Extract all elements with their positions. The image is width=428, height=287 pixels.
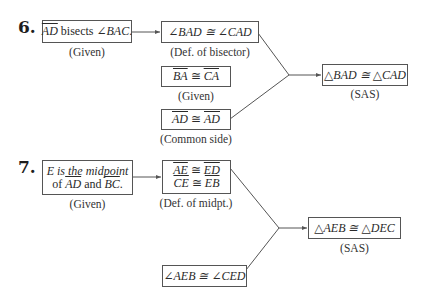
problem-number: 6. (18, 17, 36, 37)
statement-text: △BAD ≅ △CAD (324, 69, 406, 82)
statement-line: E is the midpoint (47, 164, 129, 178)
statement-text: and (81, 177, 104, 191)
conclusion-box: △BAD ≅ △CAD (322, 64, 408, 86)
segment-ad: AD (204, 112, 220, 126)
reason-label: (Given) (42, 198, 133, 210)
conclusion-box: △AEB ≅ △DEC (308, 217, 401, 239)
statement-text: of (52, 177, 65, 191)
vertical-angles-box: ∠AEB ≅ ∠CED (162, 265, 247, 287)
given-statement-box: AD bisects ∠BAC. (42, 20, 132, 43)
congruent-symbol: ≅ (188, 163, 204, 177)
reason-label: (Given) (42, 46, 132, 58)
angle-congruence-box: ∠BAD ≅ ∠CAD (161, 21, 259, 43)
congruent-symbol: ≅ (189, 176, 205, 190)
reason-label: (Def. of midpt.) (156, 197, 236, 209)
segment-ba: BA (173, 69, 188, 83)
congruent-symbol: ≅ (188, 69, 204, 83)
period: . (129, 24, 132, 38)
segment-ad: AD (172, 112, 188, 126)
segment-ad: AD (65, 177, 81, 191)
segment-ad: AD (42, 24, 58, 38)
reason-label: (SAS) (322, 88, 408, 100)
reason-label: (SAS) (308, 242, 401, 254)
period: . (120, 177, 123, 191)
angle-name: BAC (107, 24, 130, 38)
problem-number: 7. (18, 157, 36, 177)
midpoint-segments-box: AE ≅ ED CE ≅ EB (162, 160, 231, 194)
segment-ca: CA (204, 69, 219, 83)
segment-ae: AE (173, 163, 188, 177)
reason-label: (Def. of bisector) (155, 46, 265, 58)
statement-text: △AEB ≅ △DEC (314, 222, 394, 235)
reason-label: (Common side) (156, 133, 236, 145)
common-side-box: AD ≅ AD (161, 109, 231, 130)
congruent-symbol: ≅ (188, 112, 204, 126)
statement-text: ∠BAD ≅ ∠CAD (168, 26, 251, 39)
segment-ce: CE (173, 176, 188, 190)
segment-bc: BC (104, 177, 119, 191)
statement-text: bisects ∠ (58, 24, 107, 38)
segment-eb: EB (205, 176, 220, 190)
statement-text: ∠AEB ≅ ∠CED (163, 270, 245, 283)
given-statement-box: E is the midpoint of AD and BC. (42, 160, 133, 195)
side-congruence-box: BA ≅ CA (161, 66, 231, 87)
reason-label: (Given) (161, 90, 231, 102)
segment-ed: ED (204, 163, 220, 177)
